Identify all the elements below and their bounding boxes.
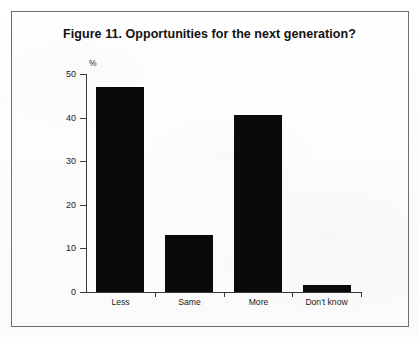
x-axis-category-label: Don't know xyxy=(292,297,361,308)
y-axis-line xyxy=(86,74,87,293)
y-axis-tick-label: 10 xyxy=(50,244,76,253)
y-axis-tick xyxy=(80,118,86,119)
bar-less xyxy=(96,87,144,292)
y-axis-tick xyxy=(80,205,86,206)
chart-title: Figure 11. Opportunities for the next ge… xyxy=(0,27,419,41)
x-axis-category-label: More xyxy=(224,297,293,308)
y-axis-unit-label: % xyxy=(89,59,97,68)
y-axis-tick-label: 40 xyxy=(50,114,76,123)
y-axis-tick xyxy=(80,248,86,249)
y-axis-tick-label: 0 xyxy=(50,288,76,297)
bar-same xyxy=(165,235,213,292)
y-axis-tick-label: 30 xyxy=(50,157,76,166)
x-axis-category-label: Less xyxy=(86,297,155,308)
x-axis-end-tick xyxy=(361,292,362,297)
bar-don-t-know xyxy=(303,285,351,292)
y-axis-tick xyxy=(80,161,86,162)
y-axis-tick xyxy=(80,292,86,293)
x-axis-category-label: Same xyxy=(155,297,224,308)
y-axis-tick-label: 50 xyxy=(50,70,76,79)
y-axis-tick-label: 20 xyxy=(50,201,76,210)
figure-container: Figure 11. Opportunities for the next ge… xyxy=(0,0,419,337)
bar-more xyxy=(234,115,282,292)
y-axis-tick xyxy=(80,74,86,75)
